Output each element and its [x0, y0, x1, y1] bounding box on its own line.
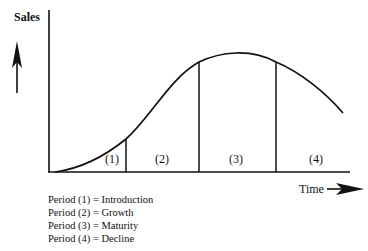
right-arrow-icon	[327, 183, 364, 195]
x-axis-label: Time	[299, 182, 324, 197]
legend-item-introduction: Period (1) = Introduction	[48, 193, 153, 206]
up-arrow-icon	[12, 41, 22, 93]
legend-item-maturity: Period (3) = Maturity	[48, 219, 153, 232]
legend-item-decline: Period (4) = Decline	[48, 232, 153, 245]
legend: Period (1) = Introduction Period (2) = G…	[48, 193, 153, 245]
period-label-1: (1)	[105, 152, 119, 167]
legend-item-growth: Period (2) = Growth	[48, 206, 153, 219]
y-axis-label: Sales	[14, 10, 40, 25]
period-label-3: (3)	[229, 152, 243, 167]
period-label-4: (4)	[309, 152, 323, 167]
period-label-2: (2)	[155, 152, 169, 167]
